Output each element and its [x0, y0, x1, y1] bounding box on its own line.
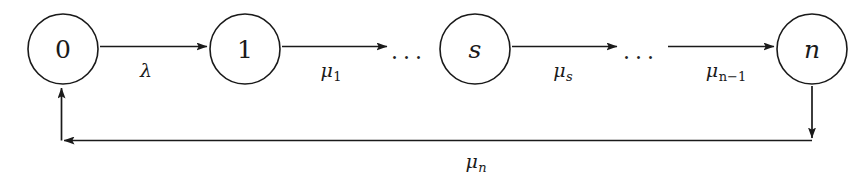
edge-label-arrival-rate-symbol: λ [140, 59, 152, 81]
node-label-state-0: 0 [55, 37, 71, 62]
ellipsis-between-s-and-n: ... [623, 41, 659, 63]
ellipsis-between-1-and-s: ... [391, 41, 427, 63]
edge-label-mu-n: μn [465, 152, 486, 174]
edge-label-mu-n-minus-1-subscript: n−1 [719, 69, 747, 84]
edge-label-mu-n-minus-1-symbol: μ [706, 59, 718, 81]
edge-label-mu-n-symbol: μ [465, 150, 477, 172]
edge-label-arrival-rate: λ [140, 61, 152, 80]
diagram-canvas: 0 1 s n ... ... λ μ1 μs μn−1 μn [0, 0, 867, 178]
edge-label-mu-1: μ1 [320, 61, 341, 83]
node-label-state-n: n [804, 37, 820, 62]
edge-label-mu-n-minus-1: μn−1 [706, 61, 746, 83]
edge-label-mu-s-subscript: s [566, 69, 573, 84]
edge-label-mu-1-subscript: 1 [333, 69, 341, 84]
edge-label-mu-s-symbol: μ [553, 59, 565, 81]
diagram-graphics [0, 0, 867, 178]
node-label-state-1: 1 [237, 37, 253, 62]
edge-label-mu-s: μs [553, 61, 573, 83]
edge-label-mu-1-symbol: μ [320, 59, 332, 81]
node-label-state-s: s [469, 37, 482, 62]
edge-label-mu-n-subscript: n [478, 160, 486, 175]
